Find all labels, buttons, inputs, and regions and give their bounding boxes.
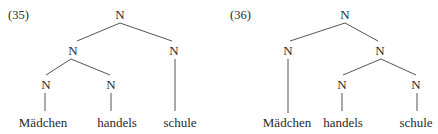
tree-36-right-right-node: N: [411, 77, 421, 92]
tree-36-edge: [345, 23, 378, 41]
tree-36-edge: [343, 59, 381, 75]
tree-36-edge: [381, 59, 416, 75]
tree-36-edge: [290, 23, 345, 41]
tree-35-left-node: N: [68, 43, 78, 58]
tree-35-left-right-node: N: [106, 77, 116, 92]
tree-36-word-maedchen: Mädchen: [263, 115, 312, 130]
tree-36-word-schule: schule: [399, 115, 432, 130]
tree-35-word-schule: schule: [163, 115, 196, 130]
tree-36-left-node: N: [283, 43, 293, 58]
tree-36-right-node: N: [375, 43, 385, 58]
tree-36: (36) N N N N N Mädchen handels schule: [230, 7, 433, 130]
tree-36-word-handels: handels: [323, 115, 363, 130]
tree-36-root-node: N: [340, 7, 350, 22]
tree-36-right-left-node: N: [337, 77, 347, 92]
tree-35-word-maedchen: Mädchen: [19, 115, 68, 130]
tree-35-edge: [120, 23, 172, 41]
tree-35-edge: [46, 59, 71, 75]
tree-35-edge: [71, 59, 110, 75]
tree-35-root-node: N: [115, 7, 125, 22]
syntax-trees-figure: (35) N N N N N Mädchen handels schule (3…: [0, 0, 438, 134]
example-number-36: (36): [230, 8, 251, 22]
tree-35: (35) N N N N N Mädchen handels schule: [8, 7, 197, 130]
tree-35-left-left-node: N: [41, 77, 51, 92]
example-number-35: (35): [8, 8, 29, 22]
tree-35-edge: [77, 23, 120, 41]
tree-35-word-handels: handels: [97, 115, 137, 130]
tree-35-right-node: N: [169, 43, 179, 58]
